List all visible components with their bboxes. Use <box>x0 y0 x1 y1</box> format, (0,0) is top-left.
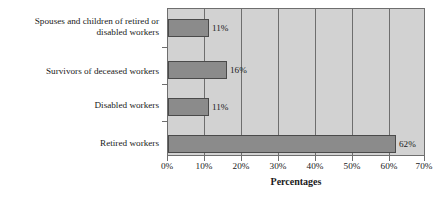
category-label-line: Retired workers <box>100 138 159 148</box>
bar-disabled <box>168 98 209 116</box>
gridline-20 <box>241 9 242 155</box>
x-axis-label-40: 40% <box>295 161 335 172</box>
gridline-40 <box>315 9 316 155</box>
value-label-survivors: 16% <box>230 65 247 76</box>
x-axis-label-60: 60% <box>369 161 409 172</box>
x-axis-label-10: 10% <box>184 161 224 172</box>
category-label-line: Survivors of deceased workers <box>46 66 159 76</box>
x-axis-label-70: 70% <box>404 161 440 172</box>
gridline-30 <box>278 9 279 155</box>
category-label-retired: Retired workers <box>0 138 159 149</box>
x-axis-label-0: 0% <box>147 161 187 172</box>
value-label-disabled: 11% <box>212 102 229 113</box>
bar-spouses-children <box>168 19 209 37</box>
category-label-line: Spouses and children of retired or <box>35 16 159 26</box>
x-axis-title: Percentages <box>167 176 425 187</box>
category-axis-labels: Spouses and children of retired or disab… <box>0 8 163 156</box>
value-label-spouses-children: 11% <box>212 23 229 34</box>
x-axis-label-50: 50% <box>332 161 372 172</box>
category-label-line: Disabled workers <box>94 100 159 110</box>
plot-area <box>167 8 425 156</box>
gridline-60 <box>389 9 390 155</box>
category-label-line: disabled workers <box>96 27 159 37</box>
category-label-spouses-children: Spouses and children of retired or disab… <box>0 16 159 38</box>
category-label-survivors: Survivors of deceased workers <box>0 66 159 77</box>
bar-survivors <box>168 61 227 79</box>
x-axis-label-30: 30% <box>258 161 298 172</box>
value-label-retired: 62% <box>399 139 416 150</box>
x-axis-label-20: 20% <box>221 161 261 172</box>
bar-retired <box>168 135 396 153</box>
bar-chart: Spouses and children of retired or disab… <box>0 0 440 204</box>
gridline-50 <box>352 9 353 155</box>
category-label-disabled: Disabled workers <box>0 100 159 111</box>
